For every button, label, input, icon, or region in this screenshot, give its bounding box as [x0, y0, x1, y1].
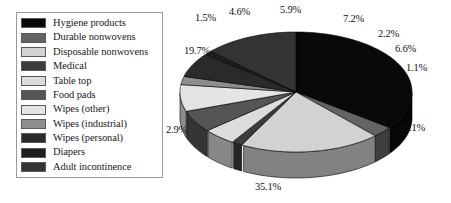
- legend-item: Food pads: [21, 88, 158, 102]
- pie-percent-label: 2.2%: [378, 28, 399, 39]
- pie-slices: [180, 32, 412, 152]
- legend-item: Diapers: [21, 146, 158, 160]
- legend-label: Wipes (personal): [53, 133, 123, 144]
- legend-item: Table top: [21, 74, 158, 88]
- pie-percent-label: 7.2%: [343, 13, 364, 24]
- legend-label: Diapers: [53, 147, 85, 158]
- legend-swatch-adult-incontinence: [21, 162, 46, 172]
- legend-swatch-wipes-other: [21, 105, 46, 115]
- legend-label: Table top: [53, 76, 91, 87]
- pie-percent-label: 35.1%: [255, 181, 281, 192]
- legend-swatch-durable-nonwovens: [21, 33, 46, 43]
- pie-percent-label: 1.1%: [406, 62, 427, 73]
- pie-percent-label: 5.9%: [280, 4, 301, 15]
- legend-item: Hygiene products: [21, 16, 158, 30]
- legend-swatch-wipes-industrial: [21, 119, 46, 129]
- legend-item: Wipes (other): [21, 102, 158, 116]
- legend-label: Adult incontinence: [53, 162, 131, 173]
- legend-item: Adult incontinence: [21, 160, 158, 174]
- pie-percent-label: 4.6%: [229, 6, 250, 17]
- pie-percent-label: 13.1%: [399, 122, 425, 133]
- pie-percent-label: 1.5%: [195, 12, 216, 23]
- legend-swatch-medical: [21, 61, 46, 71]
- legend-swatch-disposable-nonwovens: [21, 47, 46, 57]
- pie-percent-label: 6.6%: [395, 43, 416, 54]
- legend-label: Durable nonwovens: [53, 32, 136, 43]
- pie-percent-label: 2.9%: [166, 124, 187, 135]
- legend-item: Disposable nonwovens: [21, 45, 158, 59]
- legend-swatch-food-pads: [21, 90, 46, 100]
- legend-label: Medical: [53, 61, 87, 72]
- legend-swatch-hygiene-products: [21, 18, 46, 28]
- legend-label: Disposable nonwovens: [53, 47, 148, 58]
- legend-label: Wipes (other): [53, 104, 109, 115]
- legend-item: Durable nonwovens: [21, 30, 158, 44]
- legend-item: Medical: [21, 59, 158, 73]
- legend-swatch-wipes-personal: [21, 133, 46, 143]
- legend-item: Wipes (personal): [21, 131, 158, 145]
- pie-chart-area: 1.5%4.6%5.9%7.2%2.2%6.6%1.1%13.1%35.1%2.…: [163, 0, 451, 203]
- pie-svg: [163, 0, 451, 203]
- legend-item: Wipes (industrial): [21, 117, 158, 131]
- legend-swatch-table-top: [21, 76, 46, 86]
- pie-percent-label: 19.7%: [184, 45, 210, 56]
- legend-swatch-diapers: [21, 148, 46, 158]
- legend-label: Hygiene products: [53, 18, 126, 29]
- chart-legend: Hygiene products Durable nonwovens Dispo…: [16, 12, 163, 178]
- pie-chart-figure: Hygiene products Durable nonwovens Dispo…: [0, 0, 451, 203]
- pie-slice-side: [234, 143, 242, 171]
- legend-label: Wipes (industrial): [53, 119, 127, 130]
- legend-label: Food pads: [53, 90, 96, 101]
